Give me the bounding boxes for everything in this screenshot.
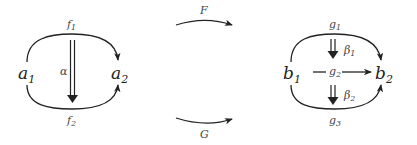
label-F: F (199, 4, 208, 17)
label-beta1: β1 (343, 44, 355, 58)
label-f2: f2 (66, 114, 76, 128)
label-g3: g3 (329, 114, 341, 128)
diagram-canvas: a1 a2 f1 f2 α F G b1 b2 g1 g2 g3 (0, 0, 417, 145)
object-b2: b2 (375, 63, 393, 86)
label-alpha: α (60, 65, 68, 78)
label-beta2: β2 (343, 89, 355, 103)
double-arrow-alpha (67, 40, 78, 103)
object-b1: b1 (283, 63, 301, 86)
functor-arrow-G (176, 118, 232, 123)
arrow-f1 (27, 34, 118, 62)
label-g2: g2 (329, 65, 341, 79)
label-G: G (200, 128, 209, 141)
arrow-g1 (291, 34, 381, 62)
right-diagram: b1 b2 g1 g2 g3 β1 β2 (283, 18, 393, 128)
label-g1: g1 (329, 18, 341, 32)
functor-arrow-F (176, 21, 232, 26)
object-a2: a2 (111, 63, 128, 86)
left-diagram: a1 a2 f1 f2 α (18, 18, 128, 128)
object-a1: a1 (18, 63, 35, 86)
double-arrow-beta2 (328, 85, 339, 105)
double-arrow-beta1 (328, 39, 339, 59)
label-f1: f1 (66, 18, 76, 32)
functors: F G (176, 4, 232, 141)
